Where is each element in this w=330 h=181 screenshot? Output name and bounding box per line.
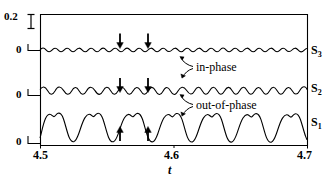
series-line-s3 (40, 48, 307, 52)
y-zero-label-s2: 0 (16, 89, 22, 100)
series-label-s2-sub: 2 (318, 88, 322, 97)
series-label-s3: S3 (311, 43, 322, 59)
marker-arrow-s3-1 (117, 34, 124, 49)
marker-arrow-s3-2 (145, 34, 152, 49)
series-label-s3-sub: 3 (318, 50, 322, 59)
marker-arrow-s2-1 (117, 78, 124, 93)
y-scalebar-icon (28, 15, 35, 29)
series-label-s1-base: S (311, 115, 318, 129)
series-label-s3-base: S (311, 43, 318, 57)
series-label-s2: S2 (311, 81, 322, 97)
x-tick-label-end: 4.7 (297, 148, 312, 163)
y-zero-label-s1: 0 (16, 136, 22, 147)
annotation-in-phase: in-phase (196, 61, 237, 73)
y-zero-ticks (28, 44, 41, 144)
y-zero-label-s3: 0 (16, 44, 22, 55)
x-axis-title: t (168, 164, 171, 176)
annotation-out-of-phase: out-of-phase (196, 99, 257, 111)
series-label-s2-base: S (311, 81, 318, 95)
series-label-s1-sub: 1 (318, 122, 322, 131)
in-phase-arrow-icon (180, 57, 193, 79)
y-axis-max-label: 0.2 (4, 11, 18, 22)
series-line-s1 (40, 113, 307, 142)
x-tick-label-mid: 4.6 (164, 148, 179, 163)
x-tick-label-start: 4.5 (33, 148, 48, 163)
plot-frame (41, 15, 308, 146)
figure-canvas: 0.2 0 0 0 4.5 4.6 4.7 t S3 S2 S1 in-phas… (0, 0, 330, 181)
out-of-phase-arrow-icon (180, 95, 193, 117)
series-line-s2 (40, 87, 307, 95)
marker-arrow-s2-2 (145, 78, 152, 93)
series-label-s1: S1 (311, 115, 322, 131)
